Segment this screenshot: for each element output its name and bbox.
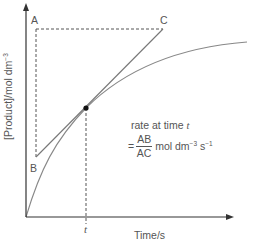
label-a: A: [31, 15, 38, 26]
formula-numerator: AB: [136, 134, 152, 147]
label-b: B: [30, 163, 37, 174]
y-axis-label-text: [Product]/mol dm: [2, 61, 14, 140]
formula-units-exp2: −1: [205, 140, 212, 147]
formula-units-exp1: −3: [190, 140, 197, 147]
formula-equals: =: [128, 140, 134, 152]
annotation-rate-text: rate at time: [131, 119, 186, 131]
rate-formula: = AB AC mol dm−3 s−1: [128, 134, 213, 158]
axes: [23, 3, 234, 220]
x-axis-label: Time/s: [134, 230, 165, 241]
formula-units: mol dm−3 s−1: [155, 140, 212, 152]
formula-units-mid: s: [197, 140, 205, 152]
formula-fraction: AB AC: [136, 134, 152, 158]
formula-units-prefix: mol dm: [155, 140, 189, 152]
y-axis-label: [Product]/mol dm−3: [3, 53, 14, 140]
label-c: C: [160, 15, 168, 26]
diagram-canvas: [0, 0, 258, 241]
annotation-time-var: t: [186, 120, 189, 131]
y-axis-label-exponent: −3: [2, 53, 9, 60]
tangent-point: [83, 105, 88, 110]
formula-denominator: AC: [137, 147, 152, 159]
annotation-line1: rate at time t: [131, 120, 189, 132]
x-axis-arrow-icon: [226, 214, 234, 220]
y-axis-arrow-icon: [23, 3, 29, 11]
label-t: t: [84, 224, 87, 235]
